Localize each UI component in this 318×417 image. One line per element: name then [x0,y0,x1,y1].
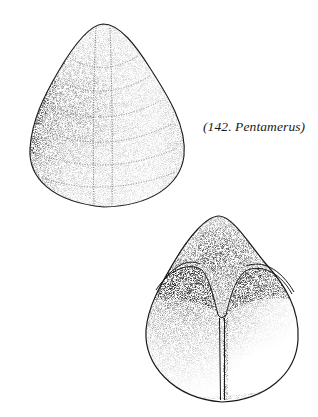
interior-shell [140,210,305,410]
figure-caption: (142. Pentamerus) [203,119,305,135]
pentamerus-illustration [0,0,318,417]
exterior-shell [20,20,200,220]
